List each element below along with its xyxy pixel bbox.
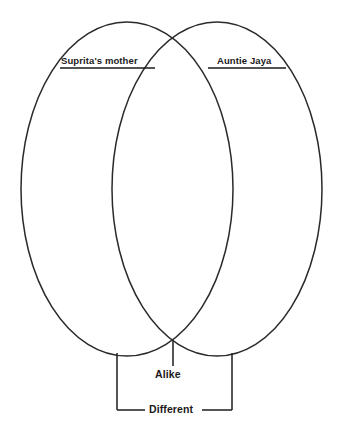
left-set-label: Suprita's mother <box>61 56 138 66</box>
intersection-label: Alike <box>155 369 181 380</box>
venn-diagram-canvas: Suprita's mother Auntie Jaya Alike Diffe… <box>0 0 341 435</box>
outer-region-label: Different <box>145 404 197 415</box>
right-set-label: Auntie Jaya <box>217 56 271 66</box>
